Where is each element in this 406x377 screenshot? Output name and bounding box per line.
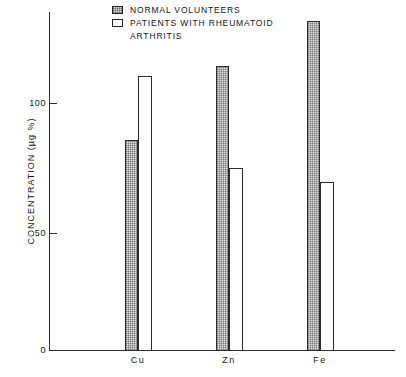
legend-label-normal-volunteers: NORMAL VOLUNTEERS [130, 4, 241, 17]
y-tick-label-0: 0 [6, 345, 46, 355]
y-tick-label-100: 100 [6, 98, 46, 108]
legend-swatch-shaded-square-icon [112, 6, 123, 14]
legend-swatch-open-square-icon [112, 19, 123, 27]
legend-item-normal-volunteers: NORMAL VOLUNTEERS [112, 4, 342, 17]
y-tick-label-wrap-100: 100 [0, 98, 46, 109]
bar-fe-rheumatoid-patients [320, 182, 334, 351]
y-tick-label-50: 50 [6, 228, 46, 238]
x-tick-label-cu: Cu [108, 355, 168, 365]
bar-fe-normal-volunteers [307, 21, 320, 351]
bar-zn-normal-volunteers [216, 66, 229, 351]
bar-zn-rheumatoid-patients [229, 168, 243, 351]
y-tick-label-wrap-50: 50 [0, 228, 46, 239]
x-tick-label-fe: Fe [290, 355, 350, 365]
bar-chart-figure: NORMAL VOLUNTEERS PATIENTS WITH RHEUMATO… [0, 0, 406, 377]
bar-cu-rheumatoid-patients [138, 76, 152, 351]
x-tick-label-zn: Zn [199, 355, 259, 365]
y-tick-mark-50 [50, 233, 57, 234]
legend-label-rheumatoid-patients: PATIENTS WITH RHEUMATOID [130, 17, 274, 30]
y-axis-line [49, 12, 50, 351]
y-tick-label-wrap-0: 0 [0, 345, 46, 356]
bar-cu-normal-volunteers [125, 140, 138, 351]
y-tick-mark-100 [50, 103, 57, 104]
